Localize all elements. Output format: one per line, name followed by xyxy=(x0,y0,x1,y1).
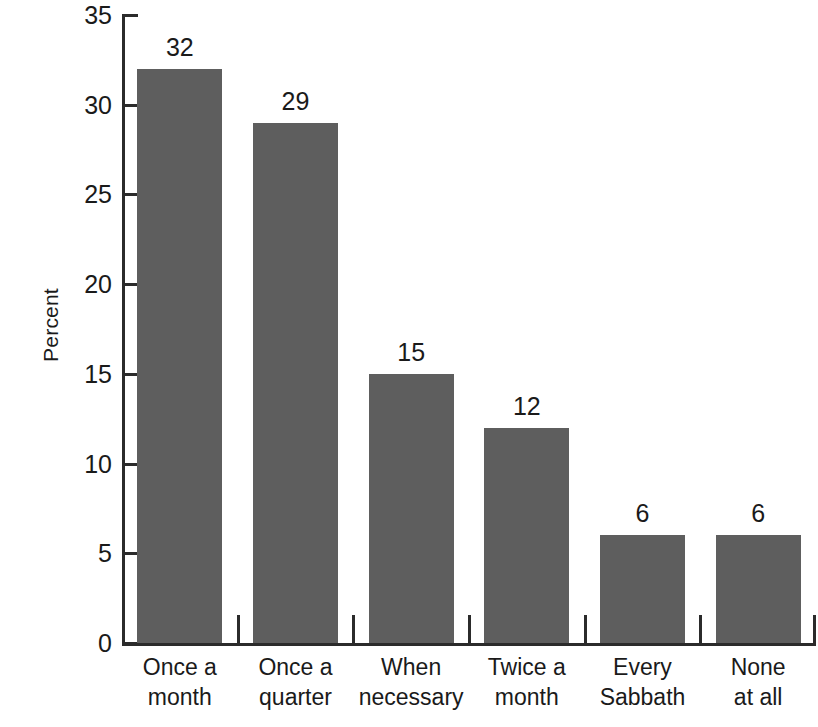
y-axis-tick-label: 25 xyxy=(68,180,112,209)
bar-value-label: 29 xyxy=(253,87,338,116)
y-axis-tick xyxy=(122,463,138,466)
bar-value-label: 15 xyxy=(369,338,454,367)
x-axis-category-label: Twice amonth xyxy=(469,652,585,712)
x-axis-category-label: EverySabbath xyxy=(585,652,701,712)
bar xyxy=(484,428,569,643)
bar xyxy=(137,69,222,643)
x-axis-category-label-line: Sabbath xyxy=(585,682,701,712)
x-axis-tick xyxy=(813,615,816,643)
x-axis-category-label-line: Every xyxy=(585,652,701,682)
y-axis-tick-label: 30 xyxy=(68,90,112,119)
x-axis-category-label-line: quarter xyxy=(238,682,354,712)
x-axis-category-label-line: Once a xyxy=(238,652,354,682)
y-axis-line xyxy=(122,15,125,643)
x-axis-line xyxy=(122,643,816,646)
y-axis-tick xyxy=(122,193,138,196)
plot-area: 3229151266 xyxy=(122,15,816,643)
bar xyxy=(253,123,338,643)
bar xyxy=(369,374,454,643)
x-axis-tick xyxy=(699,615,702,643)
y-axis-tick xyxy=(122,552,138,555)
x-axis-category-labels: Once amonthOnce aquarterWhennecessaryTwi… xyxy=(122,652,816,724)
x-axis-category-label: Whennecessary xyxy=(353,652,469,712)
y-axis-tick xyxy=(122,373,138,376)
bar-value-label: 6 xyxy=(600,499,685,528)
y-axis-tick-labels: 05101520253035 xyxy=(60,15,112,643)
y-axis-tick-label: 0 xyxy=(68,629,112,658)
x-axis-category-label-line: Once a xyxy=(122,652,238,682)
x-axis-category-label-line: at all xyxy=(700,682,816,712)
y-axis-tick xyxy=(122,283,138,286)
y-axis-tick xyxy=(122,14,138,17)
x-axis-tick xyxy=(584,615,587,643)
x-axis-tick xyxy=(237,615,240,643)
x-axis-category-label-line: Twice a xyxy=(469,652,585,682)
x-axis-category-label-line: When xyxy=(353,652,469,682)
bar xyxy=(716,535,801,643)
bar-value-label: 32 xyxy=(137,33,222,62)
bar xyxy=(600,535,685,643)
bar-chart: Percent 05101520253035 3229151266 Once a… xyxy=(0,0,818,727)
x-axis-category-label-line: necessary xyxy=(353,682,469,712)
x-axis-category-label-line: month xyxy=(122,682,238,712)
x-axis-category-label: Noneat all xyxy=(700,652,816,712)
bar-value-label: 12 xyxy=(484,392,569,421)
y-axis-tick-label: 5 xyxy=(68,539,112,568)
y-axis-tick xyxy=(122,642,138,645)
y-axis-tick xyxy=(122,104,138,107)
x-axis-category-label: Once aquarter xyxy=(238,652,354,712)
bar-value-label: 6 xyxy=(716,499,801,528)
x-axis-category-label-line: month xyxy=(469,682,585,712)
x-axis-category-label-line: None xyxy=(700,652,816,682)
x-axis-category-label: Once amonth xyxy=(122,652,238,712)
x-axis-tick xyxy=(352,615,355,643)
y-axis-tick-label: 20 xyxy=(68,270,112,299)
y-axis-tick-label: 35 xyxy=(68,1,112,30)
x-axis-tick xyxy=(468,615,471,643)
y-axis-tick-label: 15 xyxy=(68,359,112,388)
y-axis-tick-label: 10 xyxy=(68,449,112,478)
